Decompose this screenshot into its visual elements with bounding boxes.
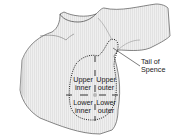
- quadrant-label-upper-outer: Upper outer: [95, 76, 117, 91]
- quadrant-label-lower-outer: Lower outer: [95, 99, 117, 114]
- tail-of-spence-label: Tail of Spence: [141, 58, 165, 74]
- upper-inner-line2: inner: [71, 84, 95, 92]
- callout-line2: Spence: [141, 66, 165, 74]
- callout-leader-line: [113, 48, 140, 66]
- upper-outer-line2: outer: [95, 84, 117, 92]
- lower-inner-line2: inner: [71, 107, 95, 115]
- quadrant-label-lower-inner: Lower inner: [71, 99, 95, 114]
- quadrant-label-upper-inner: Upper inner: [71, 76, 95, 91]
- nipple-marker: [93, 93, 97, 97]
- lower-outer-line2: outer: [95, 107, 117, 115]
